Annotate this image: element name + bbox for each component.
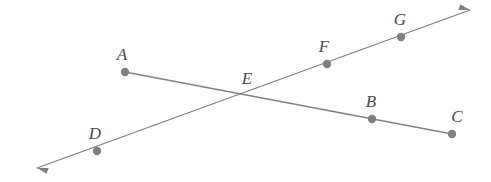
point-label-d: D bbox=[88, 124, 102, 143]
point-label-f: F bbox=[318, 37, 330, 56]
point-label-b: B bbox=[366, 92, 377, 111]
arrow-top-right bbox=[458, 4, 470, 10]
geometry-canvas: ABCDEFG bbox=[0, 0, 491, 182]
point-label-g: G bbox=[394, 10, 406, 29]
point-label-c: C bbox=[451, 107, 463, 126]
point-dot-f bbox=[323, 60, 331, 68]
point-label-e: E bbox=[241, 69, 253, 88]
point-dot-a bbox=[121, 68, 129, 76]
labels-layer: ABCDEFG bbox=[88, 10, 463, 143]
point-dot-d bbox=[93, 147, 101, 155]
segment-a-c bbox=[125, 72, 452, 134]
line-d-g bbox=[37, 10, 470, 168]
point-dot-g bbox=[397, 33, 405, 41]
lines-layer bbox=[37, 10, 470, 168]
geometry-diagram: ABCDEFG bbox=[0, 0, 491, 182]
arrow-bottom-left bbox=[37, 168, 49, 174]
point-dot-b bbox=[368, 115, 376, 123]
point-label-a: A bbox=[116, 45, 128, 64]
point-dot-c bbox=[448, 130, 456, 138]
points-layer bbox=[93, 33, 456, 155]
